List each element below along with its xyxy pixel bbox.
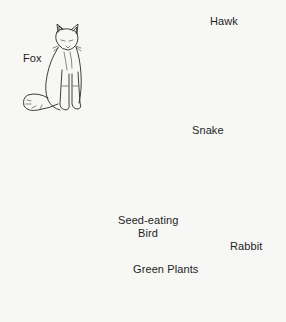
bird-label: Seed-eating Bird — [118, 214, 178, 240]
bird-label-line-1: Seed-eating — [118, 214, 178, 227]
fox-illustration — [24, 24, 82, 111]
snake-label: Snake — [192, 124, 224, 137]
hawk-label: Hawk — [210, 15, 238, 28]
green-plants-label: Green Plants — [133, 263, 198, 276]
rabbit-label: Rabbit — [230, 240, 262, 253]
fox-label: Fox — [23, 52, 42, 65]
bird-label-line-2: Bird — [118, 227, 178, 240]
